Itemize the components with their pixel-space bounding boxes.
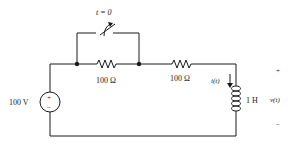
current-label: i(t) xyxy=(211,77,220,85)
resistor1-zigzag xyxy=(97,60,116,68)
wire-from-inductor xyxy=(50,111,236,136)
voltage-minus: − xyxy=(276,121,280,129)
left-wire xyxy=(50,64,77,92)
switch-wire-left xyxy=(77,33,96,64)
source-minus: − xyxy=(47,104,51,112)
switch-label: t = 0 xyxy=(96,8,112,17)
resistor2-label: 100 Ω xyxy=(170,74,190,83)
circuit-schematic: t = 0 100 Ω 100 Ω 100 V + − i(t) 1 H + v… xyxy=(0,0,298,146)
source-label: 100 V xyxy=(9,98,29,107)
resistor1-label: 100 Ω xyxy=(96,76,116,85)
node-dot-right xyxy=(137,62,141,66)
inductor-coil xyxy=(232,86,241,111)
voltage-plus: + xyxy=(276,67,280,75)
source-plus: + xyxy=(47,94,51,102)
circuit-diagram: t = 0 100 Ω 100 Ω 100 V + − i(t) 1 H + v… xyxy=(0,0,298,146)
voltage-label: v(t) xyxy=(270,96,280,104)
node-dot-left xyxy=(75,62,79,66)
resistor2-zigzag xyxy=(172,60,191,68)
inductor-label: 1 H xyxy=(246,96,258,105)
switch-wire-right xyxy=(113,33,139,64)
